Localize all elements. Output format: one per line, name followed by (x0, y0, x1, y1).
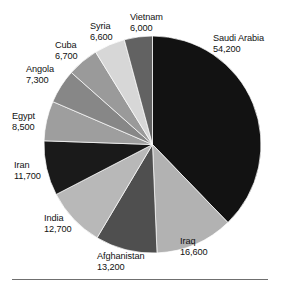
pie-label-iraq: Iraq 16,600 (180, 236, 208, 257)
pie-label-iran-value: 11,700 (14, 171, 41, 182)
pie-label-saudi-arabia-name: Saudi Arabia (213, 33, 264, 44)
pie-label-afghanistan: Afghanistan 13,200 (97, 251, 144, 272)
pie-label-india-name: India (44, 213, 72, 224)
pie-label-cuba: Cuba 6,700 (55, 40, 78, 61)
pie-label-iraq-value: 16,600 (180, 247, 208, 258)
pie-label-iran-name: Iran (14, 160, 41, 171)
pie-label-afghanistan-value: 13,200 (97, 262, 144, 273)
pie-label-angola-name: Angola (26, 64, 54, 75)
pie-label-syria-name: Syria (90, 21, 113, 32)
pie-label-afghanistan-name: Afghanistan (97, 251, 144, 262)
pie-label-angola: Angola 7,300 (26, 64, 54, 85)
bottom-divider (12, 279, 268, 280)
pie-label-saudi-arabia: Saudi Arabia 54,200 (213, 33, 264, 54)
pie-label-egypt: Egypt 8,500 (12, 111, 35, 132)
pie-label-syria: Syria 6,600 (90, 21, 113, 42)
pie-label-cuba-name: Cuba (55, 40, 78, 51)
pie-label-vietnam-value: 6,000 (130, 23, 163, 34)
pie-label-iran: Iran 11,700 (14, 160, 41, 181)
pie-label-egypt-name: Egypt (12, 111, 35, 122)
pie-label-syria-value: 6,600 (90, 32, 113, 43)
pie-label-cuba-value: 6,700 (55, 51, 78, 62)
pie-label-vietnam-name: Vietnam (130, 12, 163, 23)
pie-label-iraq-name: Iraq (180, 236, 208, 247)
pie-label-saudi-arabia-value: 54,200 (213, 44, 264, 55)
pie-label-india-value: 12,700 (44, 224, 72, 235)
pie-chart: Saudi Arabia 54,200 Iraq 16,600 Afghanis… (0, 0, 281, 289)
pie-label-angola-value: 7,300 (26, 75, 54, 86)
pie-label-vietnam: Vietnam 6,000 (130, 12, 163, 33)
pie-label-india: India 12,700 (44, 213, 72, 234)
pie-slice-group (44, 36, 261, 253)
pie-label-egypt-value: 8,500 (12, 122, 35, 133)
